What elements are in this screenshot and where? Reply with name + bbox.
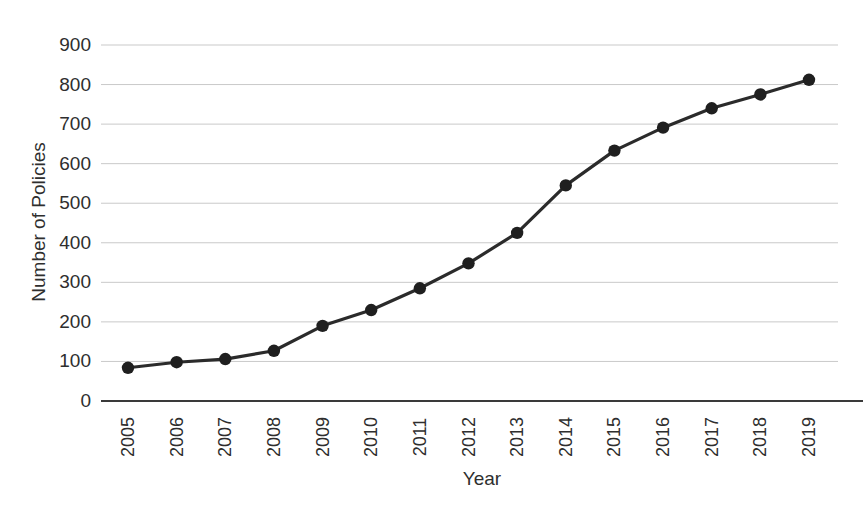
y-tick-label: 200 bbox=[31, 311, 91, 333]
x-tick-label: 2010 bbox=[361, 408, 381, 466]
line-chart-figure: Number of Policies 010020030040050060070… bbox=[0, 0, 865, 519]
plot-svg: 2005: 842006: 982007: 1062008: 1272009: … bbox=[101, 20, 863, 405]
data-point-marker: 2009: 190 bbox=[316, 320, 328, 332]
plot-area: 2005: 842006: 982007: 1062008: 1272009: … bbox=[101, 20, 863, 405]
y-tick-label: 0 bbox=[31, 390, 91, 412]
data-point-marker: 2005: 84 bbox=[122, 362, 134, 374]
y-tick-label: 300 bbox=[31, 271, 91, 293]
x-tick-label: 2016 bbox=[653, 408, 673, 466]
x-tick-label: 2011 bbox=[410, 408, 430, 466]
data-point-marker: 2018: 775 bbox=[754, 88, 766, 100]
data-point-marker: 2007: 106 bbox=[219, 353, 231, 365]
data-point-marker: 2013: 425 bbox=[511, 227, 523, 239]
x-tick-label: 2008 bbox=[264, 408, 284, 466]
data-point-marker: 2006: 98 bbox=[170, 356, 182, 368]
y-tick-label: 100 bbox=[31, 350, 91, 372]
x-tick-label: 2015 bbox=[604, 408, 624, 466]
x-axis-title: Year bbox=[101, 468, 863, 490]
series-markers: 2005: 842006: 982007: 1062008: 1272009: … bbox=[122, 74, 815, 374]
x-tick-label: 2013 bbox=[507, 408, 527, 466]
y-tick-label: 700 bbox=[31, 113, 91, 135]
data-point-marker: 2012: 348 bbox=[462, 257, 474, 269]
data-point-marker: 2011: 285 bbox=[414, 282, 426, 294]
x-tick-label: 2007 bbox=[215, 408, 235, 466]
y-tick-label: 400 bbox=[31, 232, 91, 254]
y-tick-label: 500 bbox=[31, 192, 91, 214]
x-tick-label: 2019 bbox=[799, 408, 819, 466]
data-point-marker: 2014: 545 bbox=[560, 179, 572, 191]
data-point-marker: 2017: 740 bbox=[706, 102, 718, 114]
gridlines bbox=[101, 45, 838, 361]
data-point-marker: 2010: 230 bbox=[365, 304, 377, 316]
x-tick-label: 2017 bbox=[702, 408, 722, 466]
x-tick-label: 2005 bbox=[118, 408, 138, 466]
series-line bbox=[128, 80, 809, 368]
x-axis-tick-labels: 2005200620072008200920102011201220132014… bbox=[101, 406, 863, 466]
x-tick-label: 2006 bbox=[167, 408, 187, 466]
y-tick-label: 800 bbox=[31, 74, 91, 96]
data-point-marker: 2015: 633 bbox=[608, 144, 620, 156]
x-tick-label: 2009 bbox=[313, 408, 333, 466]
x-tick-label: 2014 bbox=[556, 408, 576, 466]
y-axis-tick-labels: 0100200300400500600700800900 bbox=[21, 20, 91, 405]
y-tick-label: 600 bbox=[31, 153, 91, 175]
y-tick-label: 900 bbox=[31, 34, 91, 56]
data-point-marker: 2019: 812 bbox=[803, 74, 815, 86]
x-tick-label: 2018 bbox=[750, 408, 770, 466]
data-point-marker: 2008: 127 bbox=[268, 345, 280, 357]
data-point-marker: 2016: 691 bbox=[657, 121, 669, 133]
x-tick-label: 2012 bbox=[459, 408, 479, 466]
